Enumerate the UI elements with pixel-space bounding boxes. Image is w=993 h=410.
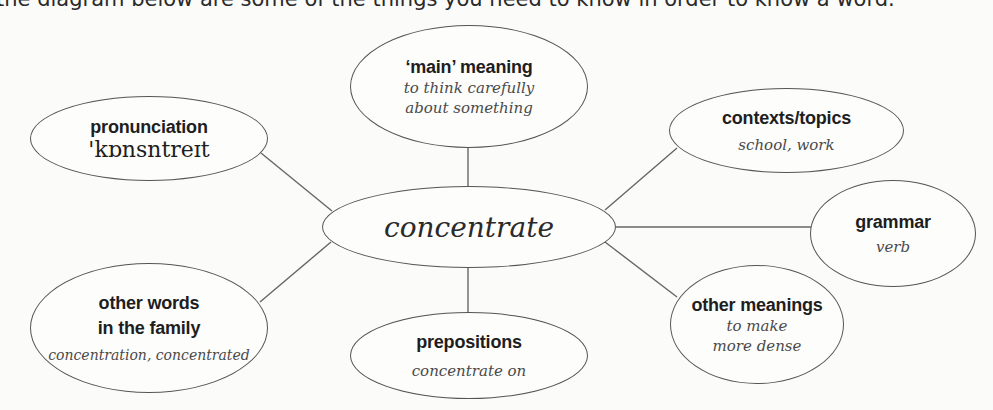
connector-pronunciation [261, 153, 332, 211]
connector-other-meanings [605, 242, 677, 297]
node-grammar: grammar verb [810, 180, 976, 287]
other-meanings-label: other meanings [691, 294, 822, 316]
family-label-line-2: in the family [98, 316, 200, 341]
grammar-label: grammar [855, 211, 931, 233]
prepositions-value: concentrate on [412, 361, 527, 381]
center-word: concentrate [384, 211, 554, 244]
pronunciation-label: pronunciation [90, 116, 207, 138]
connector-contexts [605, 148, 677, 210]
prepositions-label: prepositions [416, 331, 522, 353]
node-contexts-topics: contexts/topics school, work [669, 88, 904, 173]
main-meaning-value-line-1: to think carefully [404, 78, 535, 98]
contexts-value: school, work [738, 135, 834, 155]
node-prepositions: prepositions concentrate on [350, 312, 588, 399]
main-meaning-value-line-2: about something [405, 98, 533, 118]
pronunciation-value: 'kɒnsntreɪt [88, 138, 209, 162]
family-label-line-1: other words [99, 291, 200, 316]
node-main-meaning: ‘main’ meaning to think carefully about … [350, 25, 588, 148]
connector-family [260, 242, 331, 302]
main-meaning-label: ‘main’ meaning [405, 56, 532, 78]
other-meanings-value-line-1: to make [727, 316, 788, 336]
grammar-value: verb [876, 237, 910, 257]
contexts-label: contexts/topics [722, 107, 851, 129]
node-other-meanings: other meanings to make more dense [670, 265, 844, 384]
node-center-word: concentrate [322, 186, 616, 268]
node-word-family: other words in the family concentration,… [30, 263, 268, 393]
other-meanings-value-line-2: more dense [713, 336, 802, 356]
family-value: concentration, concentrated [48, 345, 250, 365]
node-pronunciation: pronunciation 'kɒnsntreɪt [30, 96, 268, 181]
